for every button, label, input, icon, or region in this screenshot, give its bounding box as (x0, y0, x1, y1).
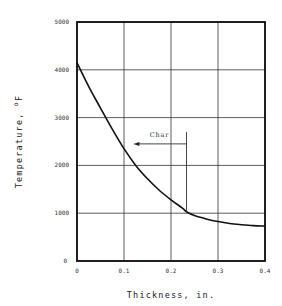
x-axis-ticks: 00.10.20.30.4 (75, 267, 271, 274)
x-tick-label: 0 (75, 267, 79, 274)
y-tick-label: 4000 (55, 66, 70, 73)
y-tick-label: 1000 (55, 209, 70, 216)
x-axis-title: Thickness, in. (127, 290, 215, 300)
y-axis-ticks: 010002000300040005000 (55, 18, 70, 264)
char-label: Char (150, 131, 169, 139)
y-tick-label: 2000 (55, 161, 70, 168)
grid-lines (77, 22, 265, 261)
arrow-left-icon (133, 142, 139, 146)
x-tick-label: 0.3 (213, 267, 224, 274)
x-tick-label: 0.1 (119, 267, 130, 274)
y-tick-label: 0 (63, 257, 67, 264)
y-tick-label: 3000 (55, 114, 70, 121)
chart: Char 010002000300040005000 00.10.20.30.4… (0, 0, 282, 306)
y-tick-label: 5000 (55, 18, 70, 25)
y-axis-title: Temperature, oF (12, 95, 24, 189)
x-tick-label: 0.4 (260, 267, 271, 274)
x-tick-label: 0.2 (166, 267, 177, 274)
